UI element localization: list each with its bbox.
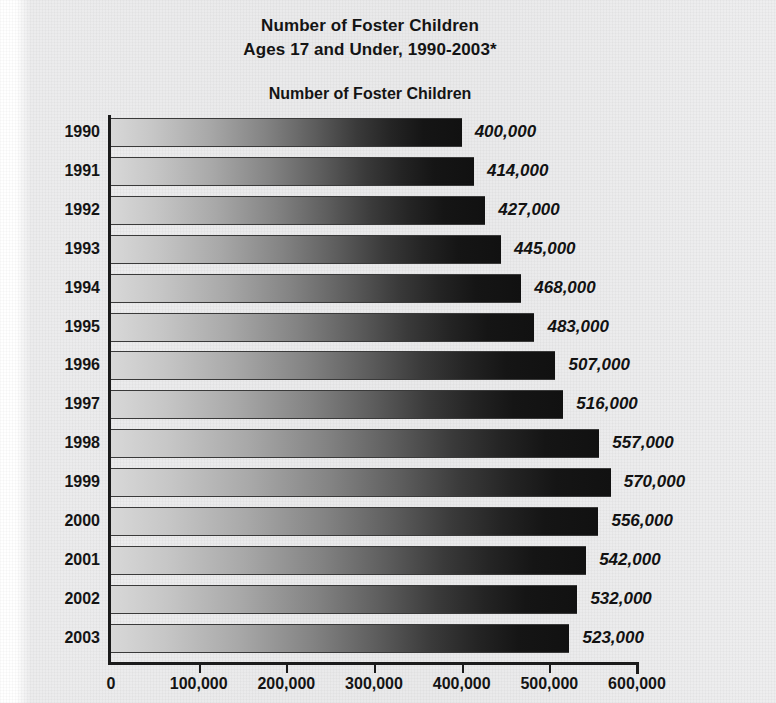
bar-1998 <box>111 429 599 458</box>
bar-value-label-1999: 570,000 <box>624 472 685 492</box>
bar-1997 <box>111 390 563 419</box>
year-label-1992: 1992 <box>0 201 100 219</box>
bar-2002 <box>111 585 577 614</box>
bar-2003 <box>111 624 569 653</box>
bar-1990 <box>111 118 462 147</box>
bar-value-label-1991: 414,000 <box>487 161 548 181</box>
x-axis-end-cap <box>636 662 639 674</box>
x-tick-label-400000: 400,000 <box>433 675 491 693</box>
bar-row: 1994468,000 <box>0 274 776 303</box>
bar-row: 1995483,000 <box>0 313 776 342</box>
x-tick-label-0: 0 <box>107 675 116 693</box>
x-tick-500000 <box>549 664 551 673</box>
bar-value-label-2000: 556,000 <box>611 511 672 531</box>
bar-value-label-1998: 557,000 <box>612 433 673 453</box>
bar-value-label-1990: 400,000 <box>475 122 536 142</box>
bar-value-label-1997: 516,000 <box>576 394 637 414</box>
bar-2001 <box>111 546 586 575</box>
bar-1995 <box>111 313 534 342</box>
bar-row: 1998557,000 <box>0 429 776 458</box>
year-label-1995: 1995 <box>0 318 100 336</box>
bar-2000 <box>111 507 598 536</box>
x-tick-label-500000: 500,000 <box>520 675 578 693</box>
bar-row: 1990400,000 <box>0 118 776 147</box>
year-label-1999: 1999 <box>0 473 100 491</box>
x-tick-label-100000: 100,000 <box>170 675 228 693</box>
bar-1994 <box>111 274 521 303</box>
year-label-1998: 1998 <box>0 434 100 452</box>
x-tick-100000 <box>199 664 201 673</box>
x-tick-300000 <box>374 664 376 673</box>
year-label-2000: 2000 <box>0 512 100 530</box>
bar-row: 2003523,000 <box>0 624 776 653</box>
x-tick-label-600000: 600,000 <box>608 675 666 693</box>
year-label-2001: 2001 <box>0 551 100 569</box>
year-label-1997: 1997 <box>0 395 100 413</box>
bar-row: 1996507,000 <box>0 351 776 380</box>
bar-value-label-1995: 483,000 <box>547 317 608 337</box>
bar-value-label-2002: 532,000 <box>590 589 651 609</box>
bar-row: 1991414,000 <box>0 157 776 186</box>
bar-value-label-2003: 523,000 <box>582 628 643 648</box>
bar-value-label-1996: 507,000 <box>568 355 629 375</box>
bar-1999 <box>111 468 611 497</box>
bar-row: 1999570,000 <box>0 468 776 497</box>
bar-value-label-1994: 468,000 <box>534 278 595 298</box>
year-label-1993: 1993 <box>0 240 100 258</box>
year-label-1991: 1991 <box>0 162 100 180</box>
bar-1993 <box>111 235 501 264</box>
x-tick-400000 <box>462 664 464 673</box>
bar-row: 1993445,000 <box>0 235 776 264</box>
bar-value-label-1993: 445,000 <box>514 239 575 259</box>
x-tick-label-300000: 300,000 <box>345 675 403 693</box>
year-label-2002: 2002 <box>0 590 100 608</box>
bar-1991 <box>111 157 474 186</box>
bar-value-label-2001: 542,000 <box>599 550 660 570</box>
chart-figure: Number of Foster Children Ages 17 and Un… <box>0 0 776 703</box>
bar-row: 2001542,000 <box>0 546 776 575</box>
bar-row: 1992427,000 <box>0 196 776 225</box>
x-tick-200000 <box>286 664 288 673</box>
year-label-2003: 2003 <box>0 629 100 647</box>
bar-value-label-1992: 427,000 <box>498 200 559 220</box>
plot-area: 1990400,0001991414,0001992427,0001993445… <box>0 0 776 703</box>
bar-1992 <box>111 196 485 225</box>
year-label-1996: 1996 <box>0 356 100 374</box>
bar-row: 2000556,000 <box>0 507 776 536</box>
year-label-1994: 1994 <box>0 279 100 297</box>
bar-row: 1997516,000 <box>0 390 776 419</box>
year-label-1990: 1990 <box>0 123 100 141</box>
bar-row: 2002532,000 <box>0 585 776 614</box>
x-tick-label-200000: 200,000 <box>257 675 315 693</box>
bar-1996 <box>111 351 555 380</box>
